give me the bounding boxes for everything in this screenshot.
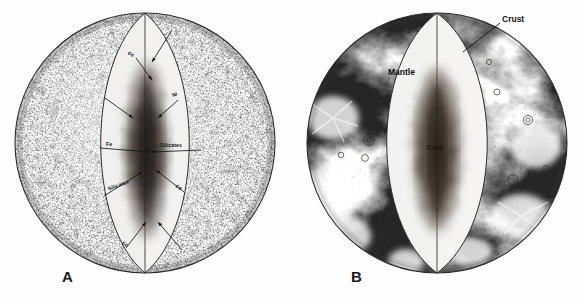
label-silicates-mid-right: Silicates [160,142,182,148]
illustration-canvas [0,0,582,306]
label-core-label: Core [427,144,443,151]
figure-plate: FeNiFeSilicatesSilicatesFeFeCrustMantleC… [0,0,582,306]
panel-a-sphere [10,8,285,283]
panel-b-letter: B [351,268,362,285]
label-mantle-label: Mantle [388,67,415,77]
label-fe-mid-left: Fe [106,141,112,147]
label-crust-label: Crust [502,14,524,24]
panel-a-letter: A [62,268,73,285]
